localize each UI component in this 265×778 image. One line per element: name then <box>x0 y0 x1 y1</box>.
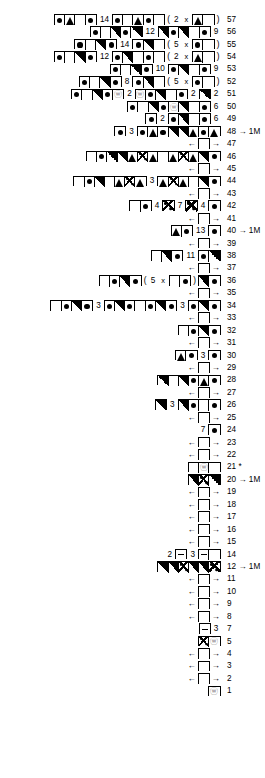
chart-row: ←→8 <box>0 610 265 622</box>
purl-stitch-cell <box>186 351 196 361</box>
wrap-make-one-cell <box>209 637 219 647</box>
arrow-left-icon: ← <box>186 574 197 583</box>
arrow-right-icon: → <box>210 661 221 670</box>
knit-stitch-cell <box>199 289 209 299</box>
arrow-left-icon: ← <box>186 450 197 459</box>
chart-row: 46 <box>0 150 265 162</box>
row-sequence <box>187 462 221 473</box>
wrap-make-one-cell <box>209 687 219 697</box>
bind-off-stitch-cell <box>176 550 186 560</box>
row-sequence: ←→ <box>186 586 221 597</box>
row-sequence: ←→ <box>186 288 221 299</box>
right-leaning-decrease-cell <box>179 114 189 124</box>
repeat-count: 2 <box>158 114 168 123</box>
row-sequence: 11 <box>150 250 221 261</box>
purl-stitch-cell <box>199 127 209 137</box>
repeat-count: 5 <box>171 77 181 86</box>
purl-stitch-cell <box>110 276 120 286</box>
row-number-label: 17 <box>221 512 261 521</box>
purl-stitch-cell <box>200 114 210 124</box>
right-leaning-decrease-cell <box>179 65 189 75</box>
knit-stitch-cell <box>154 40 164 50</box>
stitch-group <box>188 300 221 311</box>
row-sequence: 6 <box>127 101 221 112</box>
purl-stitch-cell <box>75 40 85 50</box>
right-leaning-decrease-cell <box>72 301 82 311</box>
arrow-right-icon: → <box>210 288 221 297</box>
centered-double-decrease-cell <box>148 152 158 162</box>
stitch-group <box>208 200 220 211</box>
row-sequence: ←→ <box>186 238 221 249</box>
row-sequence: 14(5x) <box>74 39 221 50</box>
stitch-group <box>151 250 184 261</box>
purl-stitch-cell <box>82 301 92 311</box>
row-number-label: 10 <box>221 587 261 596</box>
arrow-right-icon: → <box>210 438 221 447</box>
knit-stitch-cell <box>130 201 140 211</box>
arrow-right-icon: → <box>210 574 221 583</box>
row-number-label: 36 <box>221 276 261 285</box>
centered-double-decrease-cell <box>135 177 145 187</box>
knit-stitch-cell <box>199 525 209 535</box>
chart-row: 14(2x)57 <box>0 13 265 25</box>
stitch-group <box>198 511 210 522</box>
stitch-group <box>198 449 210 460</box>
repeat-paren: ) <box>192 276 198 285</box>
repeat-count: 6 <box>211 114 221 123</box>
purl-stitch-cell <box>189 301 199 311</box>
times-symbol: x <box>181 15 191 24</box>
purl-stitch-cell <box>125 301 135 311</box>
row-number-label: 18 <box>221 500 261 509</box>
stitch-group <box>199 623 211 634</box>
row-number-label: 41 <box>221 214 261 223</box>
repeat-count: 5 <box>148 276 158 285</box>
knit-stitch-cell <box>199 649 209 659</box>
row-number-label: 33 <box>221 313 261 322</box>
purl-stitch-cell <box>209 425 219 435</box>
arrow-left-icon: ← <box>186 239 197 248</box>
arrow-right-icon: → <box>210 263 221 272</box>
right-leaning-decrease-cell <box>95 177 105 187</box>
stitch-group <box>198 574 210 585</box>
purl-stitch-cell <box>158 127 168 137</box>
right-leaning-decrease-cell <box>156 90 166 100</box>
centered-double-decrease-cell <box>169 152 179 162</box>
arrow-left-icon: ← <box>186 413 197 422</box>
row-number-label: 4 <box>221 649 261 658</box>
centered-double-decrease-cell <box>179 177 189 187</box>
stitch-group <box>192 14 214 25</box>
row-sequence: 13 <box>170 225 221 236</box>
repeat-count: 7 <box>175 201 185 210</box>
row-sequence: ←→ <box>186 163 221 174</box>
arrow-right-icon: → <box>210 612 221 621</box>
knit-stitch-cell <box>121 65 131 75</box>
knit-stitch-cell <box>199 164 209 174</box>
knit-stitch-cell <box>154 52 164 62</box>
purl-stitch-cell <box>113 15 123 25</box>
row-number-label: 26 <box>221 400 261 409</box>
arrow-left-icon: ← <box>186 263 197 272</box>
repeat-count: 3 <box>127 127 137 136</box>
purl-stitch-cell <box>146 114 156 124</box>
right-leaning-decrease-cell <box>158 562 168 572</box>
row-number-label: 21 * <box>221 462 261 471</box>
chart-row: ←→22 <box>0 448 265 460</box>
chart-row: ←→3 <box>0 660 265 672</box>
purl-stitch-cell <box>209 226 219 236</box>
arrow-left-icon: ← <box>186 525 197 534</box>
chart-row: 8(5x)52 <box>0 75 265 87</box>
knit-stitch-cell <box>152 251 162 261</box>
knit-stitch-cell <box>199 413 209 423</box>
right-leaning-decrease-cell <box>179 102 189 112</box>
knit-stitch-cell <box>75 15 85 25</box>
knit-stitch-cell <box>199 450 209 460</box>
purl-stitch-cell <box>105 301 115 311</box>
right-leaning-decrease-cell <box>209 475 219 485</box>
right-leaning-decrease-cell <box>144 40 154 50</box>
times-symbol: x <box>158 276 168 285</box>
right-leaning-decrease-cell <box>115 301 125 311</box>
purl-stitch-cell <box>200 102 210 112</box>
arrow-left-icon: ← <box>186 674 197 683</box>
right-leaning-decrease-cell <box>209 251 219 261</box>
row-sequence: 129 <box>89 26 221 37</box>
